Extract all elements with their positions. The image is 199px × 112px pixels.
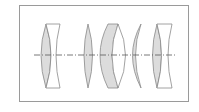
lens-group-2	[153, 24, 173, 88]
lens-group-1	[41, 24, 60, 88]
lens-diagram	[0, 0, 199, 112]
lens-element-5	[133, 24, 142, 88]
lens-element-3	[84, 24, 93, 88]
lens-element-4	[100, 24, 126, 88]
